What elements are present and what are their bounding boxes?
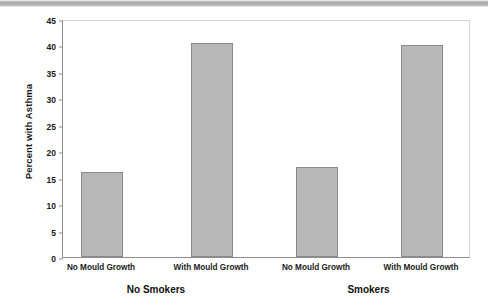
y-tick-mark: [59, 73, 63, 74]
y-tick-mark: [59, 179, 63, 180]
y-tick-mark: [59, 206, 63, 207]
y-axis-title: Percent with Asthma: [23, 42, 34, 222]
x-group-label: Smokers: [347, 284, 389, 295]
x-category-label: No Mould Growth: [67, 263, 135, 272]
bar: [296, 167, 338, 257]
y-tick-mark: [59, 21, 63, 22]
x-category-label: With Mould Growth: [174, 263, 249, 272]
x-category-label: With Mould Growth: [384, 263, 459, 272]
y-tick-mark: [59, 259, 63, 260]
y-tick-mark: [59, 126, 63, 127]
x-group-label: No Smokers: [127, 284, 185, 295]
bar: [191, 43, 233, 257]
y-tick-mark: [59, 153, 63, 154]
plot-area: 051015202530354045: [62, 20, 470, 258]
y-tick-mark: [59, 100, 63, 101]
y-tick-mark: [59, 232, 63, 233]
x-category-label: No Mould Growth: [282, 263, 350, 272]
bar: [81, 172, 123, 257]
y-tick-mark: [59, 47, 63, 48]
bar: [401, 45, 443, 257]
bar-chart: Percent with Asthma 051015202530354045 N…: [0, 0, 488, 308]
